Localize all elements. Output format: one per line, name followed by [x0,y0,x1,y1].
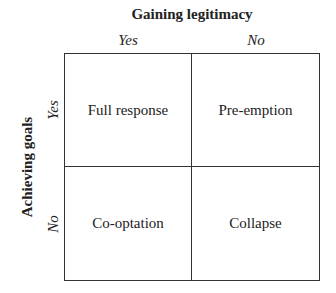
row-label-yes: Yes [45,100,62,119]
column-axis-title: Gaining legitimacy [64,6,320,23]
cell-collapse: Collapse [192,167,319,280]
cell-pre-emption: Pre-emption [192,54,319,167]
column-label-yes: Yes [64,32,192,49]
cell-co-optation: Co-optation [65,167,192,280]
row-axis-title: Achieving goals [19,117,36,217]
row-label-no: No [45,215,62,233]
cell-full-response: Full response [65,54,192,167]
matrix-grid: Full response Pre-emption Co-optation Co… [64,53,320,281]
column-label-no: No [192,32,320,49]
